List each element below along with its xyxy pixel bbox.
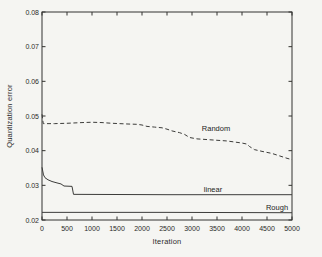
y-axis-title: Quantization error bbox=[5, 84, 14, 148]
svg-text:2500: 2500 bbox=[159, 225, 175, 232]
svg-text:500: 500 bbox=[61, 225, 73, 232]
svg-text:4500: 4500 bbox=[259, 225, 275, 232]
svg-text:0.08: 0.08 bbox=[25, 9, 39, 16]
svg-text:0.04: 0.04 bbox=[25, 147, 39, 154]
svg-text:0.02: 0.02 bbox=[25, 217, 39, 224]
svg-text:3000: 3000 bbox=[184, 225, 200, 232]
quantization-error-figure: 0500100015002000250030003500400045005000… bbox=[0, 0, 322, 257]
svg-text:0.03: 0.03 bbox=[25, 182, 39, 189]
svg-text:4000: 4000 bbox=[234, 225, 250, 232]
svg-text:1000: 1000 bbox=[84, 225, 100, 232]
svg-text:5000: 5000 bbox=[284, 225, 300, 232]
svg-text:3500: 3500 bbox=[209, 225, 225, 232]
series-label-rough: Rough bbox=[266, 202, 288, 211]
svg-text:2000: 2000 bbox=[134, 225, 150, 232]
series-label-linear: linear bbox=[204, 185, 222, 194]
line-chart-plot-area: 0500100015002000250030003500400045005000… bbox=[0, 0, 322, 257]
x-axis-title: Iteration bbox=[153, 237, 182, 246]
svg-text:0.07: 0.07 bbox=[25, 43, 39, 50]
svg-text:0.05: 0.05 bbox=[25, 113, 39, 120]
svg-text:1500: 1500 bbox=[109, 225, 125, 232]
svg-text:0: 0 bbox=[40, 225, 44, 232]
svg-text:0.06: 0.06 bbox=[25, 78, 39, 85]
series-label-random: Random bbox=[202, 123, 230, 132]
